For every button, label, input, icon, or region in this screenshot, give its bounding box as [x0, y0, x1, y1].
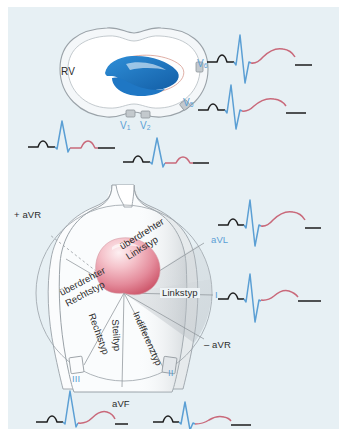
lead-label-iii: III: [72, 374, 80, 384]
electrode-label-v5: V5: [183, 98, 194, 109]
ecg-trace-iii: [36, 391, 128, 427]
lead-label-avf: aVF: [112, 399, 130, 409]
figure-page: RV V1 V2 V5 V6 + aVR aVL I – aVR II aVF …: [0, 0, 347, 436]
right-ventricle-label: RV: [61, 67, 75, 77]
ecg-trace-v1: [28, 121, 115, 152]
axis-label-linkstyp: Linkstyp: [160, 288, 200, 298]
ecg-trace-ii: [153, 402, 251, 429]
lead-label-minus-avr: – aVR: [204, 340, 231, 350]
electrode-label-v2: V2: [140, 121, 151, 132]
figure-artwork: [8, 7, 339, 429]
electrode-label-v1: V1: [120, 121, 131, 132]
electrode-v1[interactable]: [126, 110, 135, 117]
electrode-v2[interactable]: [141, 111, 150, 118]
electrode-label-v6: V6: [197, 59, 208, 70]
lead-label-ii: II: [168, 368, 173, 378]
ecg-trace-v5: [198, 85, 306, 129]
lead-label-plus-avr: + aVR: [14, 210, 41, 220]
figure-plate: RV V1 V2 V5 V6 + aVR aVL I – aVR II aVF …: [8, 7, 339, 429]
lead-label-avl: aVL: [211, 235, 228, 245]
ecg-trace-v6: [207, 35, 312, 83]
axis-label-steiltyp: Steiltyp: [111, 319, 123, 352]
ecg-trace-v2: [123, 138, 209, 167]
ecg-trace-i: [218, 274, 321, 322]
electrode-lead-iii[interactable]: [69, 356, 84, 374]
ecg-trace-avl: [218, 200, 321, 246]
lead-label-i: I: [215, 290, 218, 300]
